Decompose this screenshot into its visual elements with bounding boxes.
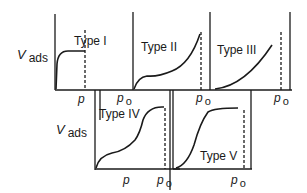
p0-label-1: po [117,92,132,104]
x-axis-label-1: p [78,93,85,105]
p0-label-5: po [231,174,246,186]
p0-label-2: po [196,92,211,104]
panel-type-4-frame [95,90,180,170]
y-axis-label-top: Vads [17,48,48,61]
isotherm-curve-type-1 [56,51,85,89]
panel-label-type-5: Type V [200,150,237,162]
p0-label-3: po [274,92,289,104]
panel-label-type-2: Type II [141,41,177,53]
panel-label-type-3: Type III [217,44,256,56]
panel-label-type-4: Type IV [99,108,140,120]
panel-label-type-1: Type I [74,35,107,47]
p0-label-4: po [157,174,172,186]
panel-type-2-frame [100,12,170,190]
x-axis-label-2: p [123,174,130,186]
y-axis-label-bottom: Vads [56,123,87,136]
isotherm-diagram [0,0,307,193]
